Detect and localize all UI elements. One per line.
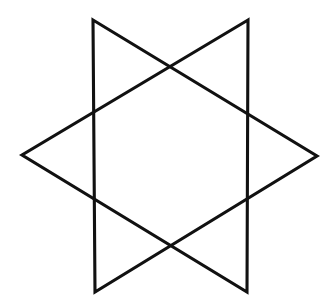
hexagram-svg xyxy=(0,0,336,308)
figure-canvas xyxy=(0,0,336,308)
canvas-background xyxy=(0,0,336,308)
